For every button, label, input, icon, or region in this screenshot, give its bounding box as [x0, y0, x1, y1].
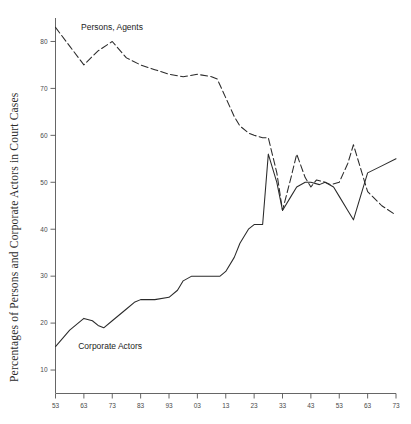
x-ticks-group: 53637383930313233343536373	[52, 394, 400, 409]
y-axis-title: Percentages of Persons and Corporate Act…	[8, 92, 21, 382]
x-tick-label: 83	[137, 402, 145, 409]
y-tick-label: 10	[40, 366, 48, 373]
series-label-corporate-actors: Corporate Actors	[78, 341, 142, 351]
x-tick-label: 33	[279, 402, 287, 409]
x-tick-label: 23	[251, 402, 259, 409]
series-line-persons-agents	[56, 27, 397, 215]
line-chart: Percentages of Persons and Corporate Act…	[0, 0, 411, 424]
x-tick-label: 43	[307, 402, 315, 409]
series-labels-group: Persons, AgentsCorporate Actors	[78, 22, 143, 351]
y-tick-label: 60	[40, 132, 48, 139]
chart-page: Percentages of Persons and Corporate Act…	[0, 0, 411, 424]
x-tick-label: 03	[194, 402, 202, 409]
y-tick-label: 20	[40, 319, 48, 326]
y-tick-label: 30	[40, 272, 48, 279]
series-group	[56, 27, 397, 346]
x-tick-label: 53	[52, 402, 60, 409]
y-tick-label: 50	[40, 179, 48, 186]
x-tick-label: 53	[336, 402, 344, 409]
x-tick-label: 63	[80, 402, 88, 409]
x-tick-label: 73	[109, 402, 117, 409]
x-tick-label: 63	[364, 402, 372, 409]
x-tick-label: 13	[222, 402, 230, 409]
x-tick-label: 73	[392, 402, 400, 409]
y-tick-label: 70	[40, 85, 48, 92]
y-axis-title-group: Percentages of Persons and Corporate Act…	[8, 92, 21, 382]
x-tick-label: 93	[165, 402, 173, 409]
series-line-corporate-actors	[56, 154, 397, 346]
y-tick-label: 80	[40, 38, 48, 45]
y-tick-label: 40	[40, 226, 48, 233]
series-label-persons-agents: Persons, Agents	[81, 22, 143, 32]
y-ticks-group: 1020304050607080	[40, 38, 55, 374]
